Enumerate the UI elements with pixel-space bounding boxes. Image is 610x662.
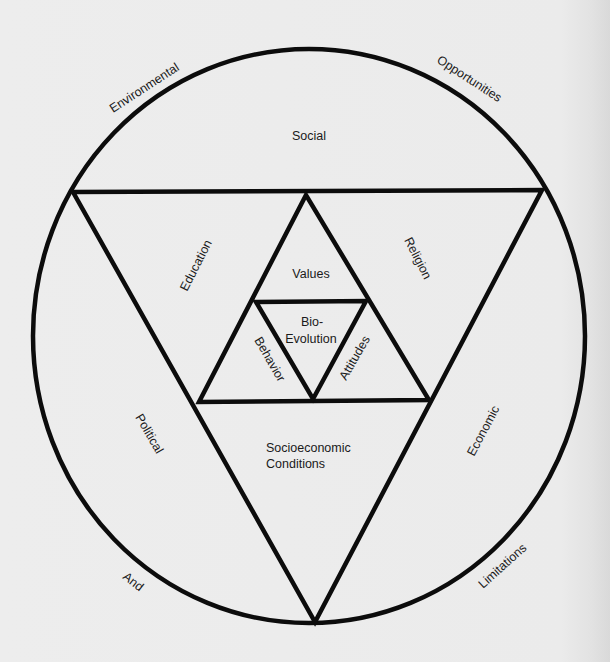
- label-education: Education: [177, 237, 215, 293]
- label-bio: Bio-: [301, 315, 323, 329]
- label-behavior: Behavior: [251, 335, 288, 385]
- label-and: And: [120, 569, 146, 594]
- label-evolution: Evolution: [285, 332, 336, 346]
- label-attitudes: Attitudes: [336, 333, 372, 382]
- outer-triangle: [73, 190, 542, 622]
- middle-triangle: [199, 195, 429, 402]
- label-political: Political: [132, 412, 166, 456]
- label-social: Social: [292, 129, 326, 143]
- label-values: Values: [292, 267, 329, 281]
- label-conditions: Conditions: [266, 457, 325, 471]
- diagram-canvas: Environmental Opportunities And Limitati…: [0, 0, 610, 662]
- label-opportunities: Opportunities: [434, 53, 504, 105]
- label-religion: Religion: [401, 235, 434, 282]
- nested-triangles-diagram: Environmental Opportunities And Limitati…: [0, 0, 610, 662]
- label-limitations: Limitations: [476, 541, 530, 591]
- label-economic: Economic: [464, 403, 502, 458]
- label-socioeconomic: Socioeconomic: [266, 441, 351, 455]
